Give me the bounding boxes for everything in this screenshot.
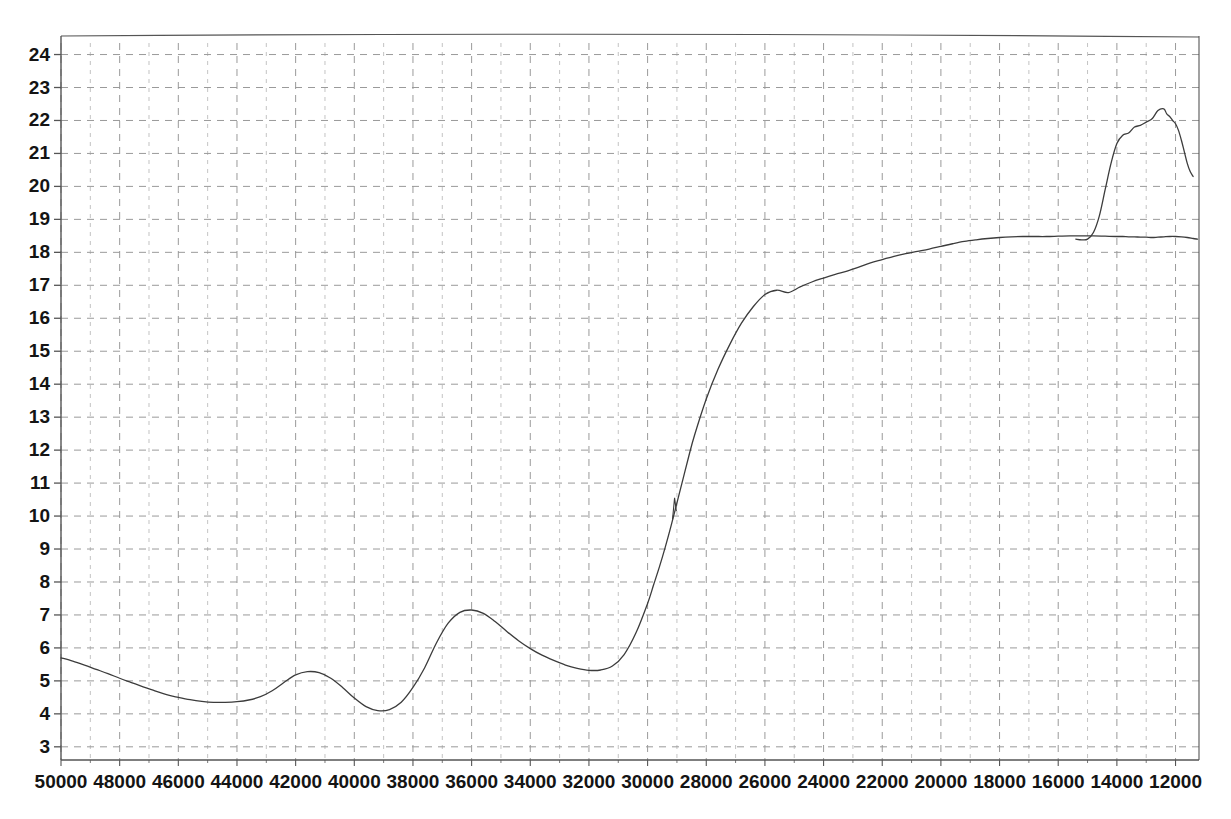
y-axis-tick-label: 7: [39, 605, 50, 624]
y-axis-tick-label: 13: [29, 407, 50, 426]
data-series-layer: [61, 109, 1198, 711]
y-axis-tick-label: 8: [39, 572, 50, 591]
x-axis-ticks: [61, 760, 1176, 766]
y-axis-tick-label: 20: [29, 176, 50, 195]
y-axis-tick-label: 5: [39, 671, 50, 690]
y-axis-tick-label: 6: [39, 638, 50, 657]
y-axis-tick-label: 9: [39, 539, 50, 558]
major-vertical-gridlines: [61, 43, 1176, 760]
y-axis-tick-label: 16: [29, 308, 50, 327]
plot-frame: [61, 34, 1199, 760]
plot-area: [0, 0, 1231, 819]
minor-vertical-gridlines: [90, 43, 1146, 760]
y-axis-tick-label: 14: [29, 374, 50, 393]
y-axis-tick-label: 21: [29, 143, 50, 162]
y-axis-tick-label: 23: [29, 78, 50, 97]
y-axis-tick-label: 15: [29, 341, 50, 360]
y-axis-tick-label: 12: [29, 440, 50, 459]
series-line-0: [61, 236, 1198, 711]
y-axis-tick-label: 3: [39, 737, 50, 756]
y-axis-tick-label: 18: [29, 242, 50, 261]
horizontal-gridlines: [61, 55, 1199, 747]
y-axis-tick-label: 19: [29, 209, 50, 228]
y-axis-tick-label: 10: [29, 506, 50, 525]
y-axis-tick-label: 17: [29, 275, 50, 294]
y-axis-tick-label: 22: [29, 110, 50, 129]
y-axis-tick-label: 24: [29, 45, 50, 64]
y-axis-ticks: [54, 55, 61, 747]
y-axis-tick-label: 4: [39, 704, 50, 723]
y-axis-tick-label: 11: [30, 473, 50, 492]
x-axis-tick-label: 12000: [1136, 772, 1216, 791]
chart-figure: 3456789101112131415161718192021222324 50…: [0, 0, 1231, 819]
